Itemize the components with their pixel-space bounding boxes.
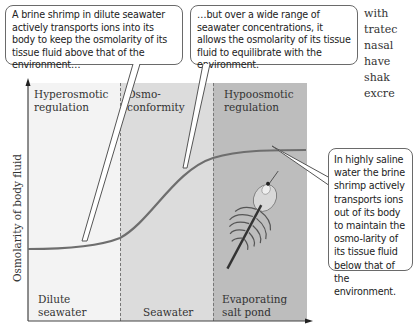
y-axis-arrow-icon bbox=[26, 78, 31, 86]
y-axis-label: Osmolarity of body fluid bbox=[11, 143, 23, 293]
body-text-fragment: with tratec nasal have shak excre bbox=[364, 6, 397, 102]
brine-shrimp-image bbox=[209, 162, 297, 278]
callout-hypoosmotic: In highly saline water the brine shrimp … bbox=[328, 148, 413, 271]
x-axis-arrow-icon bbox=[305, 319, 313, 324]
